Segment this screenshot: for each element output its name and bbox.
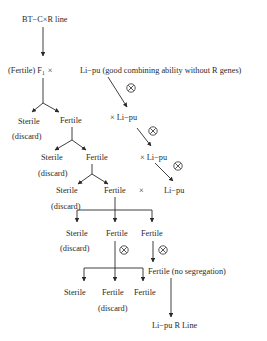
- gen2-sterile-note: (discard): [38, 169, 68, 178]
- gen1-sterile: Sterile: [18, 117, 40, 126]
- arrow-f1-fertile: [43, 103, 59, 112]
- selfing-icon: [120, 246, 128, 254]
- gen5-fertile-a-note: (discard): [98, 304, 128, 313]
- node-li-pu-r-line: Li−pu R Line: [152, 321, 198, 330]
- node-li-pu-donor: Li−pu (good combining ability without R …: [80, 66, 242, 75]
- gen4-fertile-b: Fertile: [141, 229, 163, 238]
- arrow-gen1-sterile: [55, 140, 72, 150]
- gen3-cross-symbol: ×: [139, 186, 144, 195]
- gen5-sterile: Sterile: [64, 288, 86, 297]
- arrow-backcross2-backcross3: [155, 163, 173, 181]
- gen4-fertile-a: Fertile: [106, 229, 128, 238]
- gen4-sterile: Sterile: [66, 229, 88, 238]
- node-f1: (Fertile) F1×: [8, 66, 53, 76]
- selfing-icon: [174, 162, 182, 170]
- gen2-sterile: Sterile: [41, 153, 63, 162]
- node-bt-cxr-line: BT−C×R line: [22, 15, 68, 24]
- arrow-gen2-sterile: [78, 174, 92, 184]
- gen1-fertile: Fertile: [60, 116, 82, 125]
- arrow-gen2-fertile: [92, 174, 108, 184]
- gen2-fertile: Fertile: [86, 153, 108, 162]
- gen3-li-pu: Li−pu: [164, 186, 184, 195]
- gen1-sterile-note: (discard): [12, 132, 42, 141]
- gen3-sterile: Sterile: [56, 186, 78, 195]
- gen3-fertile: Fertile: [104, 186, 126, 195]
- arrow-f1-sterile: [32, 103, 43, 112]
- f1-label: (Fertile) F: [8, 66, 42, 75]
- arrow-gen1-fertile: [72, 140, 86, 150]
- breeding-scheme-diagram: BT−C×R line (Fertile) F1× Li−pu (good co…: [0, 0, 267, 341]
- f1-cross-symbol: ×: [48, 66, 53, 75]
- gen2-backcross: × Li−pu: [140, 153, 167, 162]
- f1-subscript: 1: [42, 70, 45, 76]
- gen5-no-segregation: Fertile (no segregation): [148, 267, 226, 276]
- gen3-sterile-note: (discard): [51, 202, 81, 211]
- gen4-sterile-note: (discard): [60, 244, 90, 253]
- gen5-fertile-b: Fertile: [134, 288, 156, 297]
- gen1-backcross: × Li−pu: [110, 113, 137, 122]
- selfing-icon: [159, 246, 167, 254]
- selfing-icon: [149, 127, 157, 135]
- gen5-fertile-a: Fertile: [102, 288, 124, 297]
- selfing-icon: [127, 84, 135, 92]
- arrow-donor-backcross1: [108, 77, 127, 107]
